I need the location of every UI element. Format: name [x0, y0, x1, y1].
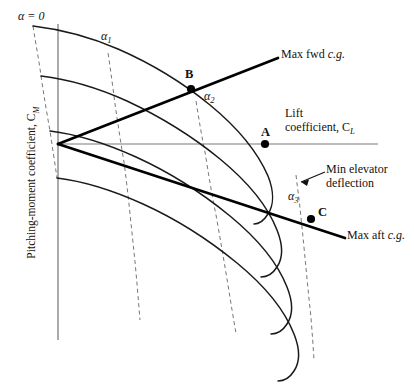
cg-trim-lines [58, 58, 345, 238]
point-c-marker [307, 215, 315, 223]
max-aft-cg-label: Max aft c.g. [347, 229, 405, 243]
lift-coefficient-subscript: L [350, 126, 355, 136]
alpha-one-label: α1 [101, 30, 112, 46]
point-b-label: B [185, 67, 193, 81]
min-elevator-line2: deflection [326, 176, 374, 190]
elevator-curve-3 [50, 131, 292, 334]
alpha-zero-label: α = 0 [18, 10, 44, 24]
point-c-label: C [318, 205, 327, 219]
max-fwd-cg-abbrev: c.g. [328, 47, 345, 61]
point-a-label: A [261, 125, 270, 139]
min-elevator-deflection-label: Min elevatordeflection [326, 163, 388, 191]
max-aft-cg-abbrev: c.g. [388, 228, 405, 242]
max-fwd-cg-text: Max fwd [281, 47, 328, 61]
max-aft-cg-line [58, 144, 345, 238]
alpha-line-2 [196, 101, 236, 333]
y-axis-label-subscript: M [32, 107, 41, 114]
max-fwd-cg-line [58, 58, 278, 144]
min-elevator-line1: Min elevator [326, 162, 388, 176]
elevator-curve-1 [33, 26, 273, 224]
alpha-one-subscript: 1 [107, 35, 111, 45]
elevator-deflection-curves [33, 26, 299, 381]
lift-coefficient-label: Liftcoefficient, CL [285, 107, 355, 137]
lift-coefficient-line1: Lift [285, 106, 303, 120]
alpha-three-subscript: 3 [294, 195, 298, 205]
lift-coefficient-line2: coefficient, C [285, 120, 350, 134]
max-aft-cg-text: Max aft [347, 228, 388, 242]
alpha-two-label: α2 [204, 90, 215, 106]
point-a-marker [261, 140, 269, 148]
alpha-three-label: α3 [288, 190, 299, 206]
elevator-curve-4 [57, 178, 299, 381]
min-elevator-leader-arrow [301, 172, 325, 186]
diagram-canvas [0, 0, 414, 386]
max-fwd-cg-label: Max fwd c.g. [281, 48, 345, 62]
alpha-two-subscript: 2 [210, 95, 214, 105]
y-axis-label: Pitching-moment coefficient, CM [25, 73, 40, 293]
pitching-moment-diagram: Pitching-moment coefficient, CM α = 0 α1… [0, 0, 414, 386]
point-b-marker [187, 85, 195, 93]
alpha-line-1 [108, 53, 140, 320]
y-axis-label-text: Pitching-moment coefficient, C [25, 114, 37, 259]
